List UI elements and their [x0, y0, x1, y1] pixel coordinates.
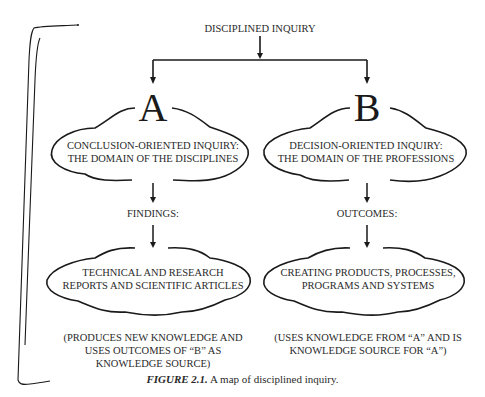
- root-label: DISCIPLINED INQUIRY: [160, 22, 360, 35]
- figure-caption: FIGURE 2.1. A map of disciplined inquiry…: [0, 373, 485, 385]
- branch-a-note: (PRODUCES NEW KNOWLEDGE AND USES OUTCOME…: [48, 331, 258, 370]
- branch-a-result: TECHNICAL AND RESEARCH REPORTS AND SCIEN…: [48, 266, 258, 292]
- branch-b-result: CREATING PRODUCTS, PROCESSES, PROGRAMS A…: [263, 266, 473, 292]
- figure-label: FIGURE 2.1.: [146, 373, 207, 385]
- branch-a-domain: CONCLUSION-ORIENTED INQUIRY: THE DOMAIN …: [53, 139, 253, 165]
- findings-label: FINDINGS:: [103, 207, 203, 220]
- branch-b-note: (USES KNOWLEDGE FROM “A” AND IS KNOWLEDG…: [263, 331, 473, 357]
- caption-text: A map of disciplined inquiry.: [208, 373, 339, 385]
- letter-b: B: [347, 88, 387, 128]
- letter-a: A: [133, 88, 173, 128]
- branch-b-domain: DECISION-ORIENTED INQUIRY: THE DOMAIN OF…: [266, 139, 466, 165]
- outcomes-label: OUTCOMES:: [317, 207, 417, 220]
